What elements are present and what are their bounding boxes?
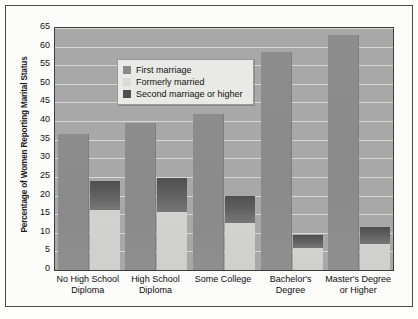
y-axis-tick-label: 15	[28, 208, 50, 217]
y-axis-tick-label: 45	[28, 96, 50, 105]
bar-formerly-married	[157, 212, 187, 270]
bar-second-marriage-or-higher	[157, 178, 187, 213]
legend-item: Second marriage or higher	[123, 88, 243, 100]
y-axis-tick-label: 35	[28, 134, 50, 143]
gridline	[55, 28, 393, 29]
bar-second-marriage-or-higher	[293, 235, 323, 248]
y-axis-tick-label: 55	[28, 59, 50, 68]
x-axis-category-label: Master's Degreeor Higher	[318, 274, 398, 296]
bar-first-marriage	[261, 52, 292, 270]
legend-label-first-marriage: First marriage	[136, 65, 192, 75]
x-axis-label-line: or Higher	[318, 285, 398, 296]
bar-formerly-married	[293, 248, 323, 270]
bar-second-marriage-or-higher	[360, 227, 390, 244]
x-axis-label-line: Diploma	[116, 285, 196, 296]
x-axis-label-line: Master's Degree	[318, 274, 398, 285]
legend-item: Formerly married	[123, 76, 243, 88]
y-axis-tick-label: 60	[28, 41, 50, 50]
y-axis-tick-label: 65	[28, 22, 50, 31]
legend-label-second-marriage: Second marriage or higher	[136, 89, 243, 99]
y-axis-tick-label: 25	[28, 171, 50, 180]
bar-formerly-married	[90, 210, 120, 270]
legend-swatch-second-marriage	[123, 90, 131, 98]
y-axis-tick-label: 50	[28, 78, 50, 87]
legend-swatch-first-marriage	[123, 66, 131, 74]
chart-legend: First marriage Formerly married Second m…	[117, 59, 254, 105]
chart-figure: Percentage of Women Reporting Marital St…	[0, 0, 418, 319]
bar-second-marriage-or-higher	[90, 181, 120, 211]
y-axis-tick-label: 40	[28, 115, 50, 124]
legend-label-formerly-married: Formerly married	[136, 77, 205, 87]
bar-first-marriage	[328, 35, 359, 270]
legend-item: First marriage	[123, 64, 243, 76]
legend-swatch-formerly-married	[123, 78, 131, 86]
y-axis-tick-label: 5	[28, 245, 50, 254]
bar-second-marriage-or-higher	[225, 196, 255, 224]
y-axis-tick-label: 20	[28, 190, 50, 199]
plot-area: First marriage Formerly married Second m…	[54, 27, 394, 271]
bar-formerly-married	[225, 223, 255, 270]
bar-first-marriage	[193, 114, 224, 270]
y-axis-tick-label: 30	[28, 152, 50, 161]
y-axis-tick-label: 0	[28, 264, 50, 273]
bar-first-marriage	[58, 134, 89, 270]
bar-formerly-married	[360, 244, 390, 270]
bar-first-marriage	[125, 123, 156, 270]
y-axis-tick-label: 10	[28, 227, 50, 236]
